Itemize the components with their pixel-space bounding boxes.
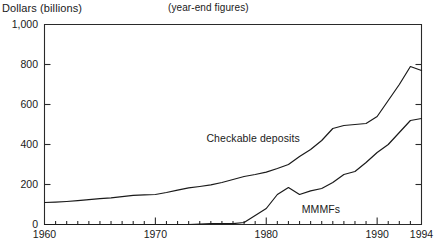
x-axis-tick-label: 1994 (399, 228, 435, 240)
chart-container: Dollars (billions) (year-end figures) 02… (0, 0, 435, 251)
y-axis-tick-label: 400 (0, 138, 38, 150)
y-axis-tick-label: 800 (0, 58, 38, 70)
y-axis-tick-label: 1,000 (0, 18, 38, 30)
x-axis-tick-label: 1960 (22, 228, 68, 240)
x-axis-tick-label: 1980 (243, 228, 289, 240)
series-label-checkable-deposits: Checkable deposits (206, 132, 299, 144)
plot-frame (45, 25, 422, 225)
series-label-mmmfs: MMMFs (302, 203, 340, 215)
y-axis-tick-label: 200 (0, 178, 38, 190)
x-axis-tick-label: 1970 (132, 228, 178, 240)
x-axis-tick-label: 1990 (354, 228, 400, 240)
y-axis-tick-label: 600 (0, 98, 38, 110)
plot-area (0, 0, 435, 251)
